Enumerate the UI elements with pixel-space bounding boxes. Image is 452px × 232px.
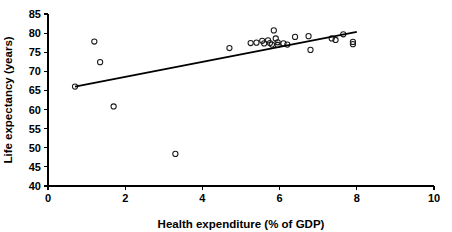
x-tick-label: 0 [45, 192, 51, 204]
data-point-marker [248, 40, 253, 45]
x-tick-label: 2 [122, 192, 128, 204]
data-point-marker [254, 40, 259, 45]
y-axis-title: Life expectancy (years) [2, 36, 14, 163]
data-point-marker [92, 39, 97, 44]
trend-line [75, 32, 357, 87]
data-point-marker [308, 47, 313, 52]
data-point-marker [271, 28, 276, 33]
y-tick-label: 60 [29, 104, 41, 116]
y-tick-label: 85 [29, 8, 41, 20]
y-tick-label: 80 [29, 27, 41, 39]
y-tick-label: 55 [29, 123, 41, 135]
x-tick-label: 8 [354, 192, 360, 204]
data-point-marker [306, 34, 311, 39]
x-axis-ticks: 0246810 [45, 186, 440, 204]
data-point-marker [111, 104, 116, 109]
data-point-marker [227, 45, 232, 50]
x-tick-label: 10 [428, 192, 440, 204]
data-point-marker [173, 151, 178, 156]
y-axis-ticks: 40455055606570758085 [29, 8, 48, 192]
y-tick-label: 40 [29, 180, 41, 192]
data-points [72, 28, 355, 157]
plot-area: 40455055606570758085 0246810 Health expe… [0, 0, 452, 232]
x-tick-label: 6 [277, 192, 283, 204]
y-tick-label: 50 [29, 142, 41, 154]
y-tick-label: 75 [29, 46, 41, 58]
x-tick-label: 4 [199, 192, 206, 204]
y-tick-label: 70 [29, 65, 41, 77]
x-axis-title: Health expenditure (% of GDP) [158, 218, 325, 230]
y-tick-label: 45 [29, 161, 41, 173]
data-point-marker [292, 34, 297, 39]
data-point-marker [98, 60, 103, 65]
y-tick-label: 65 [29, 84, 41, 96]
scatter-chart: 40455055606570758085 0246810 Health expe… [0, 0, 452, 232]
